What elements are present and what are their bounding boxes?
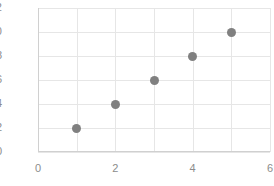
gridline-vertical xyxy=(115,8,116,152)
data-point xyxy=(72,124,81,133)
y-tick-label: 0 xyxy=(0,146,2,157)
plot-area xyxy=(38,8,270,152)
x-tick-label: 6 xyxy=(250,163,274,174)
gridline-vertical xyxy=(193,8,194,152)
y-tick-label: 6 xyxy=(0,74,2,85)
y-tick-label: 8 xyxy=(0,50,2,61)
x-tick-label: 4 xyxy=(173,163,213,174)
y-tick-label: 12 xyxy=(0,2,2,13)
x-tick-label: 2 xyxy=(95,163,135,174)
y-tick-label: 2 xyxy=(0,122,2,133)
data-point xyxy=(188,52,197,61)
data-point xyxy=(111,100,120,109)
y-axis-line xyxy=(38,8,39,152)
y-tick-label: 10 xyxy=(0,26,2,37)
gridline-vertical xyxy=(270,8,271,152)
x-tick-label: 0 xyxy=(18,163,58,174)
y-tick-label: 4 xyxy=(0,98,2,109)
data-point xyxy=(150,76,159,85)
x-axis-line xyxy=(38,151,270,152)
data-point xyxy=(227,28,236,37)
gridline-horizontal xyxy=(38,152,270,153)
scatter-chart: 024681012 0246 xyxy=(0,0,274,186)
